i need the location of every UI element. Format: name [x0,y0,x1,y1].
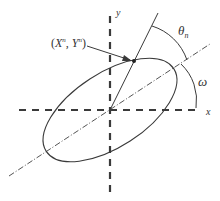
x-axis-label: x [205,106,211,117]
point-label: (Xn, Yn) [51,36,86,50]
arrowhead-icon [122,55,132,61]
ellipse-diagram: y x (Xn, Yn) θn ω [0,0,220,201]
theta-label: θn [178,23,188,40]
point-marker [132,59,136,63]
omega-arc [181,64,197,108]
omega-label: ω [198,74,207,89]
y-axis-label: y [115,7,121,18]
